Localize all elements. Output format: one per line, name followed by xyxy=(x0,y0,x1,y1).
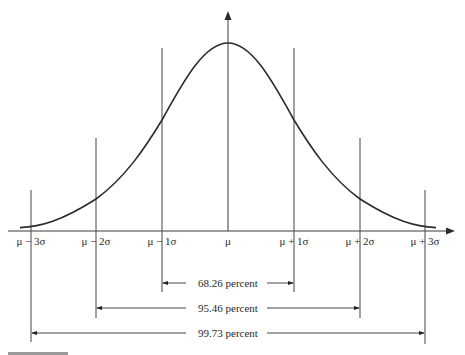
interval-1sigma-label: 68.26 percent xyxy=(198,277,258,289)
y-axis-arrow-icon xyxy=(225,11,232,20)
label-mu-plus-2sigma: μ + 2σ xyxy=(345,235,374,247)
interval-3sigma-left-arrow-icon xyxy=(31,331,37,335)
label-mu-plus-3sigma: μ + 3σ xyxy=(410,235,439,247)
interval-1sigma-right-arrow-icon xyxy=(288,281,294,285)
label-mu-minus-2sigma: μ − 2σ xyxy=(81,235,110,247)
label-mu-minus-1sigma: μ − 1σ xyxy=(147,235,176,247)
interval-2sigma-right-arrow-icon xyxy=(354,306,360,310)
x-axis-arrow-icon xyxy=(446,228,455,235)
normal-distribution-diagram: μ − 3σ μ − 2σ μ − 1σ μ μ + 1σ μ + 2σ μ +… xyxy=(0,0,465,355)
interval-2sigma-left-arrow-icon xyxy=(96,306,102,310)
label-mu-minus-3sigma: μ − 3σ xyxy=(16,235,45,247)
label-mu-plus-1sigma: μ + 1σ xyxy=(279,235,308,247)
label-mu: μ xyxy=(225,235,231,247)
interval-3sigma-right-arrow-icon xyxy=(419,331,425,335)
interval-3sigma-label: 99.73 percent xyxy=(198,327,258,339)
interval-1sigma-left-arrow-icon xyxy=(162,281,168,285)
interval-2sigma-label: 95.46 percent xyxy=(198,302,258,314)
